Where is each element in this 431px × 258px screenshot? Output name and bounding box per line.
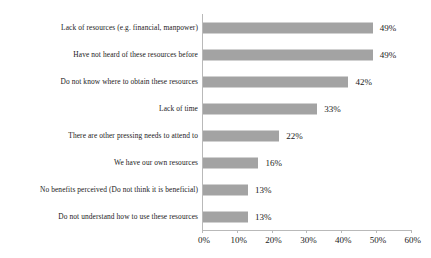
category-label: Do not know where to obtain these resour… [2,77,198,86]
bar-value-label: 22% [286,131,303,141]
bar-value-label: 42% [355,77,372,87]
x-axis-tick-label: 30% [300,234,317,246]
bar-value-label: 13% [255,185,272,195]
bar-row: Lack of time 33% [0,95,431,122]
bar-value-label: 49% [380,23,397,33]
x-axis-tick [306,230,307,233]
category-label: No benefits perceived (Do not think it i… [2,185,198,194]
x-axis-labels: 0% 10% 20% 30% 40% 50% 60% [0,234,431,250]
bar-value-label: 49% [380,50,397,60]
category-label: Have not heard of these resources before [2,50,198,59]
x-axis-tick [272,230,273,233]
x-axis-tick [376,230,377,233]
x-axis-tick-label: 0% [198,234,210,246]
x-axis-tick [202,230,203,233]
bar-row: There are other pressing needs to attend… [0,122,431,149]
bar-group: 16% [203,157,282,168]
bar-row: Do not understand how to use these resou… [0,203,431,230]
bar[interactable] [203,157,258,168]
x-axis-tick-label: 50% [370,234,387,246]
x-axis-tick [341,230,342,233]
category-label: Lack of time [2,104,198,113]
bar-chart: Lack of resources (e.g. financial, manpo… [0,0,431,258]
bar-row: Lack of resources (e.g. financial, manpo… [0,14,431,41]
bar-group: 49% [203,49,396,60]
plot-area: Lack of resources (e.g. financial, manpo… [0,0,431,258]
bar[interactable] [203,184,248,195]
bar-group: 42% [203,76,372,87]
x-axis-tick-label: 60% [405,234,422,246]
bar[interactable] [203,103,317,114]
category-label: There are other pressing needs to attend… [2,131,198,140]
bar-group: 13% [203,184,272,195]
bar-row: We have our own resources 16% [0,149,431,176]
bar-value-label: 16% [265,158,282,168]
x-axis-tick [411,230,412,233]
bar-value-label: 33% [324,104,341,114]
bar-group: 33% [203,103,341,114]
bar-group: 13% [203,211,272,222]
x-axis-tick-label: 40% [335,234,352,246]
category-label: Do not understand how to use these resou… [2,212,198,221]
bar-value-label: 13% [255,212,272,222]
x-axis-tick [237,230,238,233]
x-axis-tick-label: 20% [265,234,282,246]
category-label: We have our own resources [2,158,198,167]
category-label: Lack of resources (e.g. financial, manpo… [2,23,198,32]
bar[interactable] [203,211,248,222]
x-axis-tick-label: 10% [231,234,248,246]
bar[interactable] [203,22,373,33]
bar[interactable] [203,76,348,87]
bar[interactable] [203,130,279,141]
bar-group: 49% [203,22,396,33]
bar-rows: Lack of resources (e.g. financial, manpo… [0,14,431,230]
bar-row: Do not know where to obtain these resour… [0,68,431,95]
bar-group: 22% [203,130,303,141]
bar-row: Have not heard of these resources before… [0,41,431,68]
bar-row: No benefits perceived (Do not think it i… [0,176,431,203]
bar[interactable] [203,49,373,60]
